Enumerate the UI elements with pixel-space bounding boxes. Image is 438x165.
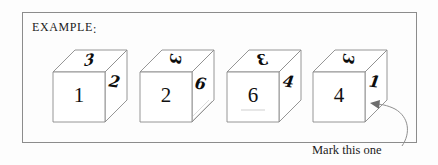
cube-1-front-digit: 1 [64, 83, 94, 108]
example-label: EXAMPLE: [32, 20, 97, 37]
cube-2-front-digit: 2 [151, 83, 181, 108]
cube-1-top-digit: 3 [84, 50, 95, 71]
cube-4-front-digit: 4 [324, 83, 354, 108]
callout-arrow-curve [375, 104, 407, 146]
cube-4-top-digit: 3 [339, 53, 358, 65]
cube-3-front-digit: 6 [238, 83, 268, 108]
example-label-text: EXAMPLE [32, 20, 93, 34]
example-label-colon: : [93, 22, 97, 36]
callout-caption: Mark this one [312, 143, 381, 158]
example-figure: EXAMPLE: 1 3 2 2 3 6 6 3 4 4 3 1 Mark th… [0, 0, 438, 165]
cube-2-top-digit: 3 [166, 53, 185, 65]
